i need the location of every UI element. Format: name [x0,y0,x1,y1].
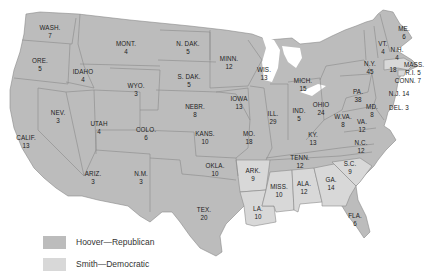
label-mo: MO.18 [243,130,255,146]
label-miss: MISS.10 [270,183,288,199]
label-idaho: IDAHO4 [73,68,93,84]
label-ri: R.I. 5 [405,69,421,77]
label-nh: N.H.4 [391,46,404,62]
label-tex: TEX.20 [197,206,211,222]
label-okla: OKLA.10 [205,162,224,178]
label-vt: VT.4 [378,40,387,56]
label-ky: KY.13 [308,131,318,147]
label-ariz: ARIZ.3 [85,170,102,186]
legend-item-democratic: Smith—Democratic [43,253,154,275]
democratic-swatch [43,258,66,271]
label-ala: ALA.12 [297,180,311,196]
label-calif: CALIF.13 [16,134,36,150]
label-fla: FLA.6 [348,212,362,228]
label-mich: MICH.15 [294,77,312,93]
label-iowa: IOWA13 [231,95,248,111]
label-tenn: TENN. 12 [290,154,309,170]
label-mont: MONT.4 [116,40,136,56]
label-ill: ILL.29 [268,110,279,126]
label-mass: MASS. [404,61,424,69]
label-va: VA.12 [357,118,367,134]
label-wash: WASH.7 [40,24,61,40]
label-la: LA.10 [253,205,263,221]
label-utah: UTAH4 [90,120,107,136]
label-sdak: S. DAK.5 [177,73,200,89]
legend-item-republican: Hoover—Republican [43,231,154,253]
label-minn: MINN.12 [220,55,238,71]
label-ohio: OHIO24 [313,101,330,117]
label-nm: N.M.3 [134,170,148,186]
label-wis: WIS.13 [257,66,271,82]
legend-label: Smith—Democratic [76,259,149,269]
label-ore: ORE.5 [32,57,48,73]
label-ny: N.Y.45 [364,60,376,76]
label-mass-votes: 18 [389,66,396,74]
label-wva: W.VA.8 [334,113,352,129]
label-ndak: N. DAK.5 [176,40,199,56]
label-conn: CONN. 7 [395,77,421,85]
republican-swatch [43,236,66,249]
legend-label: Hoover—Republican [76,237,154,247]
legend: Hoover—Republican Smith—Democratic [43,231,154,275]
label-kans: KANS.10 [195,130,214,146]
label-nj: N.J. 14 [389,90,410,98]
label-me: ME.6 [398,25,410,41]
label-wyo: WYO.3 [127,82,144,98]
label-nc: N.C.12 [355,139,368,155]
label-nev: NEV.3 [51,109,66,125]
label-nebr: NEBR.8 [185,103,205,119]
label-ga: GA.14 [325,176,336,192]
label-del: DEL. 3 [389,104,409,112]
label-ind: IND.5 [293,107,306,123]
label-md: MD.8 [366,103,378,119]
label-pa: PA.38 [353,88,363,104]
label-ark: ARK.9 [245,167,260,183]
label-colo: COLO.6 [136,126,156,142]
label-sc: S.C.9 [344,160,357,176]
